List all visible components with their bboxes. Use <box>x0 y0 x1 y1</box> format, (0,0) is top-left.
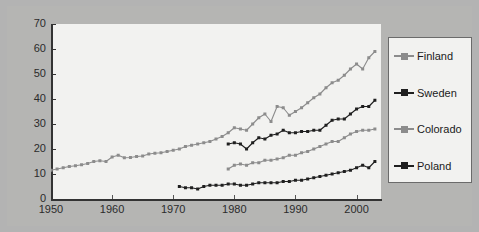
series-marker <box>74 164 77 167</box>
series-marker <box>239 163 242 166</box>
series-marker <box>325 174 328 177</box>
series-marker <box>208 140 211 143</box>
series-marker <box>105 160 108 163</box>
series-marker <box>263 138 266 141</box>
series-marker <box>178 185 181 188</box>
series-marker <box>257 161 260 164</box>
series-marker <box>178 148 181 151</box>
series-marker <box>208 184 211 187</box>
series-marker <box>325 86 328 89</box>
series-marker <box>355 166 358 169</box>
series-marker <box>98 159 101 162</box>
series-marker <box>111 156 114 159</box>
series-marker <box>56 168 59 171</box>
legend-marker-icon <box>394 160 414 172</box>
series-marker <box>349 133 352 136</box>
series-marker <box>263 113 266 116</box>
series-marker <box>312 148 315 151</box>
series-marker <box>318 145 321 148</box>
series-marker <box>153 152 156 155</box>
series-marker <box>86 162 89 165</box>
series-marker <box>373 160 376 163</box>
series-marker <box>337 171 340 174</box>
series-marker <box>373 99 376 102</box>
series-marker <box>233 183 236 186</box>
legend-item-label: Poland <box>417 160 451 172</box>
series-marker <box>294 131 297 134</box>
series-marker <box>294 110 297 113</box>
series-marker <box>288 180 291 183</box>
series-colorado <box>227 128 377 171</box>
series-marker <box>245 129 248 132</box>
series-marker <box>239 184 242 187</box>
series-marker <box>325 143 328 146</box>
chart-legend: FinlandSwedenColoradoPoland <box>388 37 472 183</box>
legend-marker-icon <box>394 123 414 135</box>
series-marker <box>306 150 309 153</box>
series-marker <box>300 151 303 154</box>
series-marker <box>343 74 346 77</box>
series-marker <box>227 168 230 171</box>
series-line <box>228 129 375 169</box>
series-marker <box>221 135 224 138</box>
series-marker <box>306 178 309 181</box>
x-axis-tick-label: 2000 <box>335 203 379 215</box>
series-marker <box>288 154 291 157</box>
series-marker <box>251 183 254 186</box>
series-marker <box>337 118 340 121</box>
series-marker <box>172 149 175 152</box>
series-marker <box>270 134 273 137</box>
series-marker <box>373 128 376 131</box>
series-marker <box>306 130 309 133</box>
series-marker <box>117 154 120 157</box>
series-marker <box>227 131 230 134</box>
legend-item-sweden[interactable]: Sweden <box>389 84 473 102</box>
series-marker <box>62 166 65 169</box>
legend-marker-icon <box>394 50 414 62</box>
series-marker <box>257 136 260 139</box>
series-marker <box>221 184 224 187</box>
series-marker <box>276 158 279 161</box>
series-marker <box>282 156 285 159</box>
legend-item-label: Sweden <box>417 87 457 99</box>
series-marker <box>355 108 358 111</box>
series-marker <box>367 105 370 108</box>
series-marker <box>196 188 199 191</box>
series-marker <box>68 165 71 168</box>
series-marker <box>270 120 273 123</box>
legend-item-colorado[interactable]: Colorado <box>389 120 473 138</box>
series-marker <box>325 124 328 127</box>
series-marker <box>361 105 364 108</box>
series-marker <box>288 131 291 134</box>
series-marker <box>337 79 340 82</box>
series-marker <box>300 106 303 109</box>
series-marker <box>331 140 334 143</box>
series-marker <box>202 185 205 188</box>
series-marker <box>312 129 315 132</box>
series-marker <box>196 143 199 146</box>
series-marker <box>276 133 279 136</box>
series-finland <box>51 50 376 172</box>
series-marker <box>318 93 321 96</box>
series-marker <box>239 143 242 146</box>
legend-item-finland[interactable]: Finland <box>389 47 473 65</box>
series-marker <box>361 68 364 71</box>
series-marker <box>367 56 370 59</box>
series-marker <box>361 164 364 167</box>
series-marker <box>294 179 297 182</box>
series-marker <box>331 119 334 122</box>
series-marker <box>166 150 169 153</box>
legend-item-poland[interactable]: Poland <box>389 157 473 175</box>
series-marker <box>355 63 358 66</box>
series-marker <box>318 129 321 132</box>
series-marker <box>257 116 260 119</box>
series-marker <box>251 161 254 164</box>
series-marker <box>215 138 218 141</box>
series-marker <box>251 141 254 144</box>
series-marker <box>343 118 346 121</box>
series-marker <box>245 184 248 187</box>
series-marker <box>257 181 260 184</box>
series-marker <box>288 114 291 117</box>
series-marker <box>300 179 303 182</box>
chart-figure: 010203040506070 195019601970198019902000… <box>0 0 479 232</box>
